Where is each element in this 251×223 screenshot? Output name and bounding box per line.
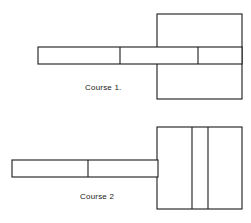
figure-course-1 — [38, 14, 242, 99]
figure-course-2 — [12, 127, 242, 209]
technical-drawing-canvas — [0, 0, 251, 223]
course-1-bar-outline — [38, 47, 242, 64]
figure-caption-course-2: Course 2 — [80, 192, 114, 201]
course-2-bar-outline — [12, 160, 158, 177]
course-2-block-outline — [157, 127, 242, 209]
figure-caption-course-1: Course 1. — [85, 83, 121, 92]
